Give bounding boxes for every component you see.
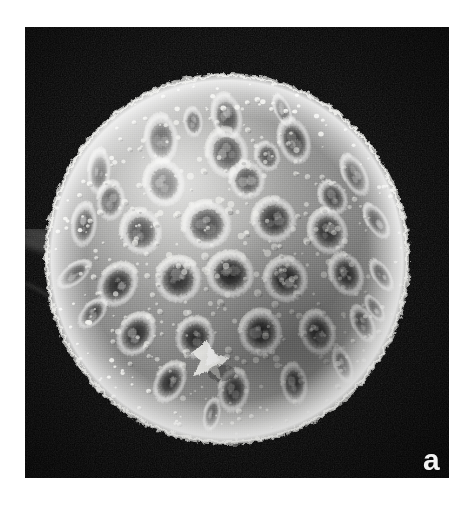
figure-root: a [0, 0, 474, 506]
micrograph-plate: a [25, 27, 449, 478]
panel-label: a [423, 445, 449, 475]
sem-image [25, 27, 449, 478]
